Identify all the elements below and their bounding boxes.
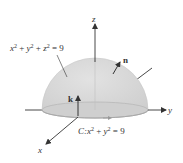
x-axis-label: x — [37, 145, 42, 155]
x-axis — [46, 117, 78, 144]
curve-equation-label: C:x2 + y2 = 9 — [78, 126, 125, 136]
normal-vector-label: n — [123, 55, 128, 65]
k-vector-label: k — [68, 94, 73, 104]
y-axis-label: y — [167, 105, 172, 115]
surface-equation-label: x2 + y2 + z2 = 9 — [9, 43, 64, 53]
hemisphere-diagram: z y x k n x2 + y2 + z2 = 9 C:x2 + y2 = 9 — [0, 0, 183, 163]
z-axis-label: z — [91, 14, 96, 24]
back-axis-line — [136, 68, 152, 80]
